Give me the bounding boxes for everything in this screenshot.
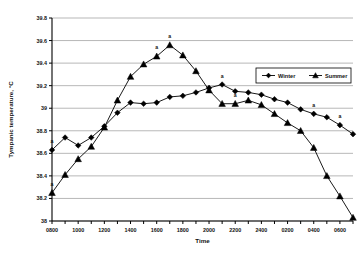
x-tick-label: 1600 xyxy=(151,227,163,233)
significance-annotation: a xyxy=(51,138,54,144)
x-tick-label: 1800 xyxy=(177,227,189,233)
x-axis-ticks: 0800100012001400160018002000220024000200… xyxy=(46,221,353,233)
x-tick-label: 0600 xyxy=(334,227,346,233)
significance-annotation: a xyxy=(168,33,171,39)
significance-annotation: a xyxy=(51,181,54,187)
y-axis-title: Tympanic temperature, °C xyxy=(7,81,14,158)
plot-area xyxy=(52,18,353,221)
x-tick-label: 0800 xyxy=(46,227,58,233)
significance-annotation: a xyxy=(338,113,341,119)
y-tick-label: 38.2 xyxy=(37,195,48,201)
y-tick-label: 39.6 xyxy=(37,38,48,44)
x-tick-label: 2200 xyxy=(229,227,241,233)
significance-annotation: a xyxy=(234,92,237,98)
tympanic-temperature-line-chart: 3838.238.438.638.83939.239.439.639.80800… xyxy=(0,0,362,256)
y-tick-label: 38 xyxy=(41,218,47,224)
legend-label: Summer xyxy=(325,73,348,79)
y-tick-label: 39.4 xyxy=(37,60,48,66)
x-tick-label: 0200 xyxy=(282,227,294,233)
y-tick-label: 38.6 xyxy=(37,150,48,156)
y-axis-ticks: 3838.238.438.638.83939.239.439.639.8 xyxy=(37,15,53,224)
legend-item-summer[interactable]: Summer xyxy=(309,73,348,79)
y-tick-label: 38.8 xyxy=(37,128,48,134)
x-axis-title: Time xyxy=(195,237,210,244)
y-tick-label: 39 xyxy=(41,105,47,111)
x-tick-label: 0400 xyxy=(308,227,320,233)
x-tick-label: 2400 xyxy=(255,227,267,233)
chart-container: 3838.238.438.638.83939.239.439.639.80800… xyxy=(0,0,362,256)
significance-annotation: a xyxy=(312,102,315,108)
y-tick-label: 39.8 xyxy=(37,15,48,21)
significance-annotation: a xyxy=(155,44,158,50)
legend-label: Winter xyxy=(278,73,296,79)
x-tick-label: 1400 xyxy=(125,227,137,233)
y-tick-label: 39.2 xyxy=(37,83,48,89)
x-tick-label: 1200 xyxy=(98,227,110,233)
x-tick-label: 2000 xyxy=(203,227,215,233)
legend: WinterSummer xyxy=(256,68,351,83)
x-tick-label: 1000 xyxy=(72,227,84,233)
significance-annotation: a xyxy=(221,73,224,79)
y-tick-label: 38.4 xyxy=(37,173,48,179)
